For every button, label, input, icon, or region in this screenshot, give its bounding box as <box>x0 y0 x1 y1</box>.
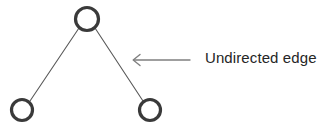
undirected-graph-figure <box>0 0 334 135</box>
node-top <box>76 8 99 31</box>
node-bottom-left <box>12 100 33 121</box>
node-bottom-right <box>140 100 161 121</box>
annotation-label: Undirected edge <box>205 49 317 67</box>
diagram-canvas: Undirected edge <box>0 0 334 135</box>
annotation-arrow-icon <box>133 55 190 66</box>
edge-top-bottom-left <box>30 28 79 101</box>
edge-top-bottom-right <box>95 28 143 101</box>
